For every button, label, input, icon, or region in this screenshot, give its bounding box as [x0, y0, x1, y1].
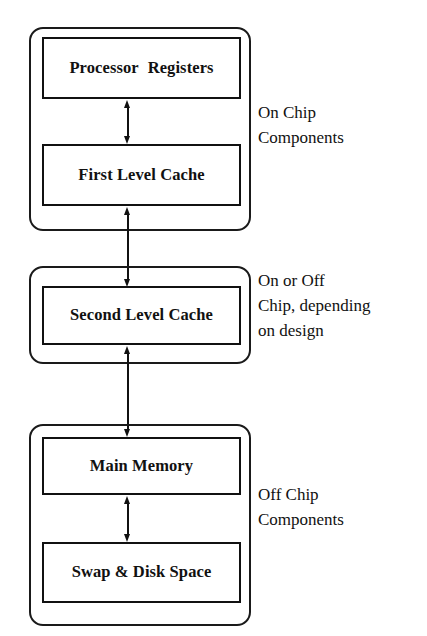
- arrowhead-down-icon: [124, 534, 130, 542]
- box-second-level-cache-label: Second Level Cache: [70, 307, 213, 324]
- arrow-shaft: [127, 106, 129, 138]
- annotation-on-or-off-line-1: On or Off: [258, 268, 370, 293]
- box-processor-registers-label: Processor Registers: [69, 60, 213, 77]
- box-main-memory-label: Main Memory: [90, 458, 193, 475]
- arrow-main-memory-to-swap-disk-space: [124, 496, 131, 542]
- memory-hierarchy-diagram: Processor Registers First Level Cache On…: [0, 0, 427, 636]
- box-first-level-cache: First Level Cache: [42, 144, 241, 206]
- annotation-off-chip-line-1: Off Chip: [258, 482, 344, 507]
- arrow-shaft: [127, 502, 129, 536]
- arrow-shaft: [127, 352, 129, 431]
- box-processor-registers: Processor Registers: [42, 37, 241, 99]
- annotation-on-chip-components: On Chip Components: [258, 100, 344, 150]
- arrowhead-down-icon: [124, 136, 130, 144]
- annotation-on-or-off-line-2: Chip, depending: [258, 293, 370, 318]
- annotation-off-chip-line-2: Components: [258, 507, 344, 532]
- arrow-registers-to-first-level-cache: [124, 100, 131, 144]
- box-first-level-cache-label: First Level Cache: [78, 167, 204, 184]
- box-swap-disk-space-label: Swap & Disk Space: [72, 564, 212, 581]
- box-main-memory: Main Memory: [42, 437, 241, 495]
- box-second-level-cache: Second Level Cache: [42, 286, 241, 345]
- annotation-on-chip-line-1: On Chip: [258, 100, 344, 125]
- annotation-on-or-off-line-3: on design: [258, 318, 370, 343]
- annotation-on-or-off-chip: On or Off Chip, depending on design: [258, 268, 370, 343]
- box-swap-disk-space: Swap & Disk Space: [42, 542, 241, 603]
- annotation-on-chip-line-2: Components: [258, 125, 344, 150]
- annotation-off-chip-components: Off Chip Components: [258, 482, 344, 532]
